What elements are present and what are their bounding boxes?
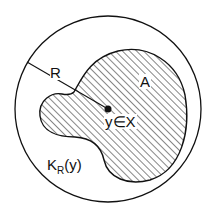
diagram-canvas: [0, 0, 211, 217]
label-a: A: [139, 74, 151, 89]
center-point: [105, 106, 112, 113]
label-r: R: [50, 65, 61, 80]
label-ball-k: K: [47, 156, 57, 173]
label-ball-arg: (y): [64, 156, 82, 173]
label-ball: KR(y): [47, 157, 82, 176]
label-point: y∈X: [104, 114, 137, 129]
